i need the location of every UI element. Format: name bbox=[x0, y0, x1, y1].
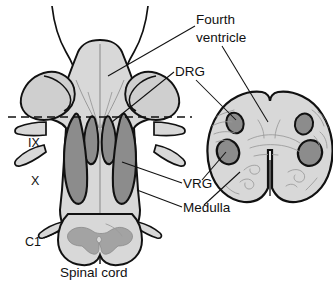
caption-spinal-cord: Spinal cord bbox=[60, 265, 128, 280]
label-c1: C1 bbox=[25, 235, 41, 249]
cross-section-panel bbox=[207, 92, 332, 202]
leader-medulla-dorsal bbox=[137, 190, 182, 207]
label-fourth-ventricle-line2: ventricle bbox=[196, 30, 246, 45]
label-drg: DRG bbox=[175, 64, 205, 79]
rootlet-ix-right bbox=[154, 122, 185, 136]
rootlet-ix-left bbox=[15, 122, 46, 136]
label-medulla: Medulla bbox=[183, 200, 231, 215]
diagram-canvas: Fourth ventricle DRG VRG Medulla IX X C1… bbox=[0, 0, 333, 287]
label-vrg: VRG bbox=[183, 176, 212, 191]
label-nerve-x: X bbox=[31, 174, 40, 188]
label-nerve-ix: IX bbox=[28, 136, 40, 150]
rootlet-x-right bbox=[154, 145, 185, 166]
label-fourth-ventricle-line1: Fourth bbox=[196, 12, 235, 27]
brainstem-diagram-figure: Fourth ventricle DRG VRG Medulla IX X C1… bbox=[0, 0, 333, 287]
